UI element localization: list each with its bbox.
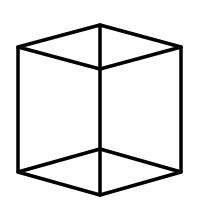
cube-diagram	[0, 0, 197, 211]
